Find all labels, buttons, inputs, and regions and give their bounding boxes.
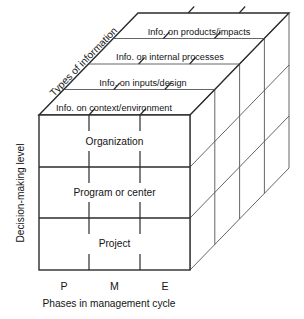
row-label-program-or-center: Program or center <box>73 187 156 198</box>
depth-label-2: Info. on internal processes <box>116 52 224 62</box>
row-label-project: Project <box>99 238 131 249</box>
depth-label-0: Info. on context/environment <box>56 103 172 113</box>
phase-tick-e: E <box>161 280 168 292</box>
depth-label-1: Info. on inputs/design <box>99 78 186 88</box>
decision-cube-diagram: Info. on context/environment Info. on in… <box>0 0 304 319</box>
vertical-axis-title: Decision-making level <box>15 143 26 242</box>
phase-tick-m: M <box>110 280 119 292</box>
depth-label-3: Info. on products/impacts <box>148 27 251 37</box>
horizontal-axis-title: Phases in management cycle <box>42 298 175 309</box>
phase-tick-p: P <box>60 280 67 292</box>
row-label-organization: Organization <box>86 136 144 147</box>
vertical-axis-title-group: Decision-making level <box>15 143 26 242</box>
